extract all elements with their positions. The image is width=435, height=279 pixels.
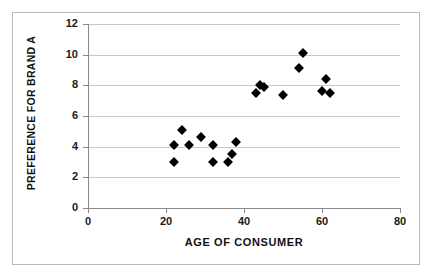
x-tick-label: 40 bbox=[229, 216, 259, 227]
x-tick-label: 60 bbox=[307, 216, 337, 227]
data-point bbox=[208, 140, 218, 150]
y-tick-label-wrap: 4 bbox=[52, 141, 78, 153]
x-tick-mark bbox=[244, 208, 245, 213]
x-tick-mark bbox=[88, 208, 89, 213]
y-tick-mark bbox=[83, 147, 88, 148]
gridline-y bbox=[88, 24, 400, 25]
x-tick-label: 80 bbox=[385, 216, 415, 227]
gridline-y bbox=[88, 177, 400, 178]
y-tick-label-wrap: 2 bbox=[52, 171, 78, 183]
data-point bbox=[169, 140, 179, 150]
plot-area bbox=[88, 24, 400, 208]
data-point bbox=[208, 157, 218, 167]
gridline-y bbox=[88, 116, 400, 117]
data-point bbox=[298, 48, 308, 58]
data-point bbox=[321, 74, 331, 84]
x-axis-title: AGE OF CONSUMER bbox=[88, 236, 400, 248]
data-point bbox=[184, 140, 194, 150]
data-point bbox=[294, 64, 304, 74]
y-axis-line bbox=[88, 24, 89, 209]
x-tick-mark bbox=[322, 208, 323, 213]
y-tick-label: 10 bbox=[54, 49, 78, 60]
y-tick-label-wrap: 10 bbox=[52, 49, 78, 61]
y-tick-label: 8 bbox=[54, 79, 78, 90]
gridline-y bbox=[88, 85, 400, 86]
y-tick-label: 2 bbox=[54, 171, 78, 182]
y-tick-label-wrap: 12 bbox=[52, 18, 78, 30]
data-point bbox=[177, 125, 187, 135]
y-tick-mark bbox=[83, 85, 88, 86]
y-tick-label-wrap: 0 bbox=[52, 202, 78, 214]
x-tick-label: 20 bbox=[151, 216, 181, 227]
y-tick-label: 0 bbox=[54, 202, 78, 213]
y-tick-mark bbox=[83, 116, 88, 117]
data-point bbox=[278, 90, 288, 100]
scatter-chart: 024681012020406080 AGE OF CONSUMER PREFE… bbox=[0, 0, 435, 279]
x-tick-mark bbox=[400, 208, 401, 213]
data-point bbox=[196, 133, 206, 143]
data-point bbox=[231, 137, 241, 147]
x-tick-mark bbox=[166, 208, 167, 213]
data-point bbox=[169, 157, 179, 167]
y-tick-label: 6 bbox=[54, 110, 78, 121]
y-tick-label-wrap: 6 bbox=[52, 110, 78, 122]
gridline-y bbox=[88, 55, 400, 56]
y-tick-label: 4 bbox=[54, 141, 78, 152]
x-tick-label: 0 bbox=[73, 216, 103, 227]
gridline-y bbox=[88, 147, 400, 148]
y-tick-label-wrap: 8 bbox=[52, 79, 78, 91]
y-tick-label: 12 bbox=[54, 18, 78, 29]
y-tick-mark bbox=[83, 177, 88, 178]
y-tick-mark bbox=[83, 55, 88, 56]
y-axis-title: PREFERENCE FOR BRAND A bbox=[25, 21, 37, 206]
y-tick-mark bbox=[83, 24, 88, 25]
